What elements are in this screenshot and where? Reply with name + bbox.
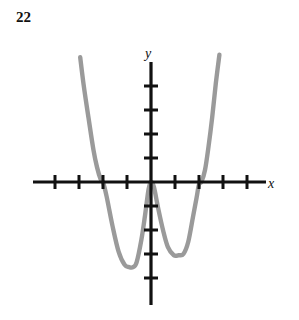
polynomial-graph-plot: x y — [0, 0, 299, 320]
y-axis-label: y — [143, 46, 152, 61]
figure-root: 22 x y — [0, 0, 299, 320]
x-axis-label: x — [267, 176, 275, 191]
